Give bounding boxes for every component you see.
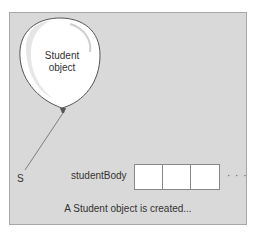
balloon-illustration [0, 0, 257, 235]
reference-arrow [25, 113, 63, 170]
variable-student-body-label: studentBody [71, 170, 127, 181]
student-body-array [134, 164, 220, 190]
caption: A Student object is created... [9, 203, 247, 214]
balloon-label-line1: Student [22, 50, 102, 62]
array-cell [191, 165, 219, 189]
array-cell [163, 165, 191, 189]
array-cell [135, 165, 163, 189]
array-ellipsis: · · · [227, 170, 248, 181]
balloon-label-line2: object [22, 62, 102, 74]
balloon-label: Student object [22, 50, 102, 74]
variable-s-label: S [17, 173, 24, 184]
